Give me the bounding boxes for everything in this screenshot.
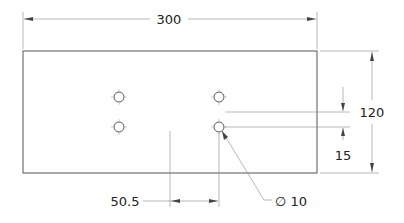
hole-top-right — [211, 89, 227, 105]
width-label: 300 — [157, 12, 182, 27]
hole-spacing-dimension: 15 — [225, 87, 351, 163]
hole-top-left — [111, 89, 127, 105]
hole-bottom-left — [111, 119, 127, 135]
offset-dimension: 50.5 — [111, 131, 219, 209]
technical-drawing: 300 120 15 50.5 — [0, 0, 404, 223]
holes — [111, 89, 227, 135]
diameter-label: ∅ 10 — [275, 194, 307, 209]
spacing-label: 15 — [335, 148, 352, 163]
diameter-leader: ∅ 10 — [222, 131, 307, 209]
height-label: 120 — [360, 105, 385, 120]
width-dimension: 300 — [23, 12, 317, 49]
hole-bottom-right — [211, 119, 227, 135]
offset-label: 50.5 — [111, 194, 140, 209]
